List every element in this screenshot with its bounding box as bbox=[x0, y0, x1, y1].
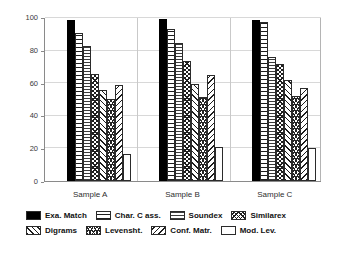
bar-exa-match-sample-c[interactable] bbox=[252, 20, 260, 181]
bar-similarex-sample-c[interactable] bbox=[276, 64, 284, 181]
bar-similarex-sample-b[interactable] bbox=[183, 61, 191, 181]
group-separator-1 bbox=[137, 18, 138, 181]
bar-group-sample-b bbox=[159, 18, 223, 181]
legend-item-char-c-ass[interactable]: Char. C ass. bbox=[96, 211, 170, 220]
legend-item-conf-matr[interactable]: Conf. Matr. bbox=[151, 226, 220, 235]
bar-char-c-ass-sample-c[interactable] bbox=[260, 22, 268, 181]
y-tick-label-0: 0 bbox=[0, 178, 38, 186]
bar-levensht-sample-c[interactable] bbox=[292, 96, 300, 181]
bar-digrams-sample-b[interactable] bbox=[191, 84, 199, 181]
bar-mod-lev-sample-b[interactable] bbox=[215, 147, 223, 181]
bar-group-sample-c bbox=[252, 18, 316, 181]
legend-row-2: DigramsLevensht.Conf. Matr.Mod. Lev. bbox=[26, 223, 326, 238]
bar-char-c-ass-sample-b[interactable] bbox=[167, 29, 175, 181]
legend-item-soundex[interactable]: Soundex bbox=[170, 211, 232, 220]
bar-digrams-sample-c[interactable] bbox=[284, 80, 292, 181]
x-label-sample-a: Sample A bbox=[44, 191, 136, 199]
legend-label-digrams: Digrams bbox=[45, 227, 77, 235]
legend-swatch-digrams bbox=[26, 226, 41, 235]
legend-item-exa-match[interactable]: Exa. Match bbox=[26, 211, 96, 220]
legend-swatch-char-c-ass bbox=[96, 211, 111, 220]
bar-mod-lev-sample-a[interactable] bbox=[123, 154, 131, 181]
legend-swatch-mod-lev bbox=[221, 226, 236, 235]
legend-row-1: Exa. MatchChar. C ass.SoundexSimilarex bbox=[26, 208, 326, 223]
legend-label-soundex: Soundex bbox=[189, 212, 223, 220]
y-tick-label-80: 80 bbox=[0, 47, 38, 55]
bar-levensht-sample-a[interactable] bbox=[107, 99, 115, 181]
legend-item-mod-lev[interactable]: Mod. Lev. bbox=[221, 226, 285, 235]
plot-right-edge bbox=[320, 18, 321, 181]
plot-area bbox=[44, 18, 321, 182]
y-tick-label-40: 40 bbox=[0, 112, 38, 120]
bar-chart-figure: 020406080100 Sample ASample BSample C Ex… bbox=[0, 0, 341, 258]
x-label-sample-c: Sample C bbox=[229, 191, 321, 199]
legend-item-similarex[interactable]: Similarex bbox=[231, 211, 295, 220]
legend-swatch-conf-matr bbox=[151, 226, 166, 235]
y-tick-label-20: 20 bbox=[0, 145, 38, 153]
bar-soundex-sample-a[interactable] bbox=[83, 46, 91, 181]
legend-swatch-similarex bbox=[231, 211, 246, 220]
legend-label-mod-lev: Mod. Lev. bbox=[240, 227, 276, 235]
bar-similarex-sample-a[interactable] bbox=[91, 74, 99, 181]
bar-conf-matr-sample-a[interactable] bbox=[115, 85, 123, 181]
legend-swatch-soundex bbox=[170, 211, 185, 220]
x-label-sample-b: Sample B bbox=[136, 191, 228, 199]
bar-soundex-sample-b[interactable] bbox=[175, 43, 183, 181]
legend-label-exa-match: Exa. Match bbox=[45, 212, 87, 220]
y-tick-label-60: 60 bbox=[0, 80, 38, 88]
legend-label-similarex: Similarex bbox=[250, 212, 286, 220]
bar-digrams-sample-a[interactable] bbox=[99, 90, 107, 181]
group-separator-2 bbox=[230, 18, 231, 181]
bar-char-c-ass-sample-a[interactable] bbox=[75, 33, 83, 181]
legend-label-char-c-ass: Char. C ass. bbox=[115, 212, 161, 220]
bar-conf-matr-sample-b[interactable] bbox=[207, 75, 215, 181]
bar-exa-match-sample-b[interactable] bbox=[159, 19, 167, 181]
legend-item-digrams[interactable]: Digrams bbox=[26, 226, 86, 235]
chart-legend: Exa. MatchChar. C ass.SoundexSimilarexDi… bbox=[26, 208, 326, 238]
bar-soundex-sample-c[interactable] bbox=[268, 57, 276, 181]
legend-item-levensht[interactable]: Levensht. bbox=[86, 226, 151, 235]
bar-levensht-sample-b[interactable] bbox=[199, 97, 207, 181]
bar-conf-matr-sample-c[interactable] bbox=[300, 88, 308, 181]
bar-group-sample-a bbox=[67, 18, 131, 181]
legend-label-conf-matr: Conf. Matr. bbox=[170, 227, 211, 235]
y-tick-label-100: 100 bbox=[0, 14, 38, 22]
bar-mod-lev-sample-c[interactable] bbox=[308, 148, 316, 181]
y-tick-mark-0 bbox=[41, 182, 44, 183]
legend-swatch-exa-match bbox=[26, 211, 41, 220]
legend-swatch-levensht bbox=[86, 226, 101, 235]
legend-label-levensht: Levensht. bbox=[105, 227, 142, 235]
bar-exa-match-sample-a[interactable] bbox=[67, 20, 75, 181]
